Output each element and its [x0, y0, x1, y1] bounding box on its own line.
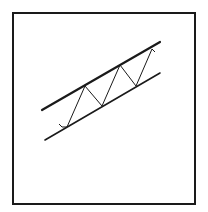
trend-channel-diagram	[0, 0, 208, 212]
upper-trendline	[42, 42, 160, 110]
lower-trendline	[45, 73, 160, 140]
price-zigzag-line	[59, 49, 155, 127]
